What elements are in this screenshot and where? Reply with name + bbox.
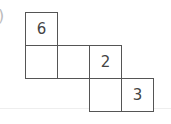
net-cell-r1-c0 [25,45,58,79]
net-cell-r1-c1 [57,45,90,79]
net-cell-r1-c2: 2 [89,45,122,79]
net-cell-r2-c2 [89,78,122,112]
item-label: ) [0,6,4,25]
net-cell-r2-c3: 3 [121,78,154,112]
net-cell-r0-c0: 6 [25,12,58,46]
